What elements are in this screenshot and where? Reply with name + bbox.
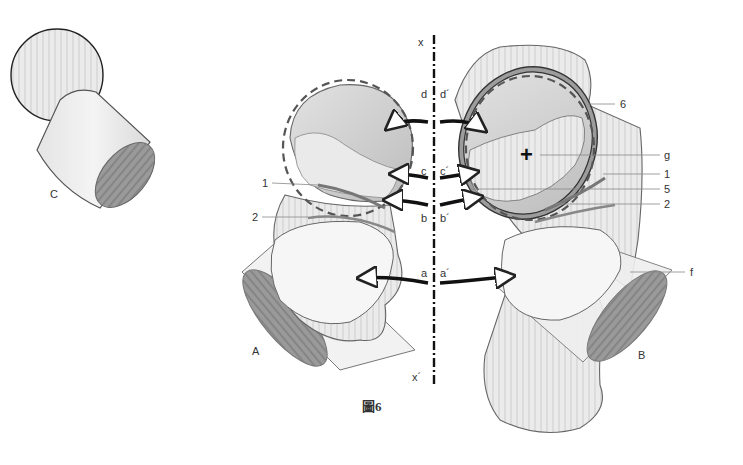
panel-label-b: B xyxy=(638,349,645,361)
axis-label-bottom: x´ xyxy=(412,371,421,383)
pair-label-b: b xyxy=(421,212,427,224)
callout-6: 6 xyxy=(620,98,626,110)
callout-1-left: 1 xyxy=(262,177,268,189)
callout-g: g xyxy=(664,149,670,161)
hip-joint-diagram: C A 1 2 xyxy=(0,0,743,465)
axis-label-top: x xyxy=(418,36,424,48)
pair-label-d-prime: d´ xyxy=(440,88,450,100)
pair-label-a: a xyxy=(421,267,428,279)
panel-label-a: A xyxy=(252,345,260,357)
arrow-b-right xyxy=(440,197,480,205)
callout-5: 5 xyxy=(664,183,670,195)
pair-label-b-prime: b´ xyxy=(440,212,450,224)
panel-c: C xyxy=(11,29,166,218)
pair-label-a-prime: a´ xyxy=(440,267,450,279)
figure-caption: 圖6 xyxy=(362,399,382,414)
panel-label-c: C xyxy=(50,188,58,200)
callout-1-right: 1 xyxy=(664,168,670,180)
arrow-b-left xyxy=(386,200,428,205)
callout-2-left: 2 xyxy=(252,211,258,223)
callout-2-right: 2 xyxy=(664,198,670,210)
panel-a: A 1 2 xyxy=(230,80,415,378)
panel-b: + B 6 g 1 5 2 f xyxy=(438,45,694,432)
callout-f: f xyxy=(690,266,694,278)
pair-label-d: d xyxy=(421,88,427,100)
center-plus-icon: + xyxy=(520,142,533,167)
